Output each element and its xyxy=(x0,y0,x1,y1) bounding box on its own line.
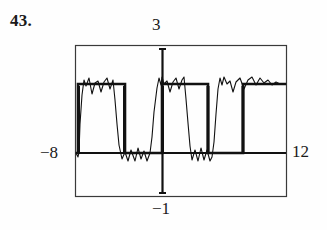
graph-frame xyxy=(76,46,287,197)
calculator-graph-viewport xyxy=(0,0,327,230)
graph-figure: 43. 3 −1 −8 12 xyxy=(0,0,327,230)
square-wave-trace xyxy=(76,84,286,153)
fourier-approximation-trace xyxy=(76,77,286,161)
